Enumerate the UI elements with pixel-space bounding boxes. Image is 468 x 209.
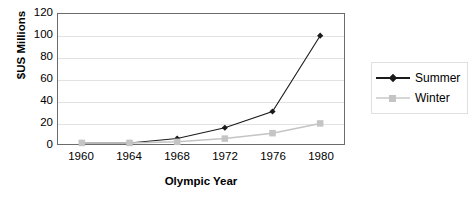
- square-marker-icon: [389, 95, 396, 102]
- plot-area: [57, 13, 345, 145]
- data-point-square[interactable]: [79, 140, 86, 147]
- y-axis-tick-labels: 020406080100120: [14, 0, 53, 209]
- y-axis-tick-label: 0: [14, 139, 53, 151]
- data-point-diamond[interactable]: [222, 125, 228, 131]
- legend-item-winter[interactable]: Winter: [376, 88, 460, 108]
- diamond-marker-icon: [389, 74, 397, 82]
- chart-legend: Summer Winter: [371, 62, 468, 114]
- legend-marker-winter: [376, 91, 410, 105]
- legend-marker-summer: [376, 71, 410, 85]
- series-line-summer: [82, 36, 320, 143]
- x-axis-title: Olympic Year: [57, 175, 345, 187]
- data-point-square[interactable]: [222, 135, 229, 142]
- legend-label-summer: Summer: [410, 71, 460, 85]
- y-axis-tick-label: 120: [14, 7, 53, 19]
- y-axis-tick-label: 60: [14, 73, 53, 85]
- x-axis-tick-labels: 196019641968197219761980: [57, 150, 345, 166]
- data-point-square[interactable]: [126, 140, 133, 147]
- y-axis-tick-label: 100: [14, 29, 53, 41]
- data-point-diamond[interactable]: [317, 33, 323, 39]
- data-point-diamond[interactable]: [269, 108, 275, 114]
- data-point-square[interactable]: [317, 120, 324, 127]
- y-axis-tick-label: 80: [14, 51, 53, 63]
- y-axis-tick-label: 20: [14, 117, 53, 129]
- data-point-square[interactable]: [269, 130, 276, 137]
- series-layer: [58, 14, 344, 144]
- data-point-square[interactable]: [174, 139, 181, 146]
- x-axis-tick-label: 1980: [291, 150, 351, 162]
- legend-item-summer[interactable]: Summer: [376, 68, 460, 88]
- legend-label-winter: Winter: [410, 91, 450, 105]
- y-axis-tick-label: 40: [14, 95, 53, 107]
